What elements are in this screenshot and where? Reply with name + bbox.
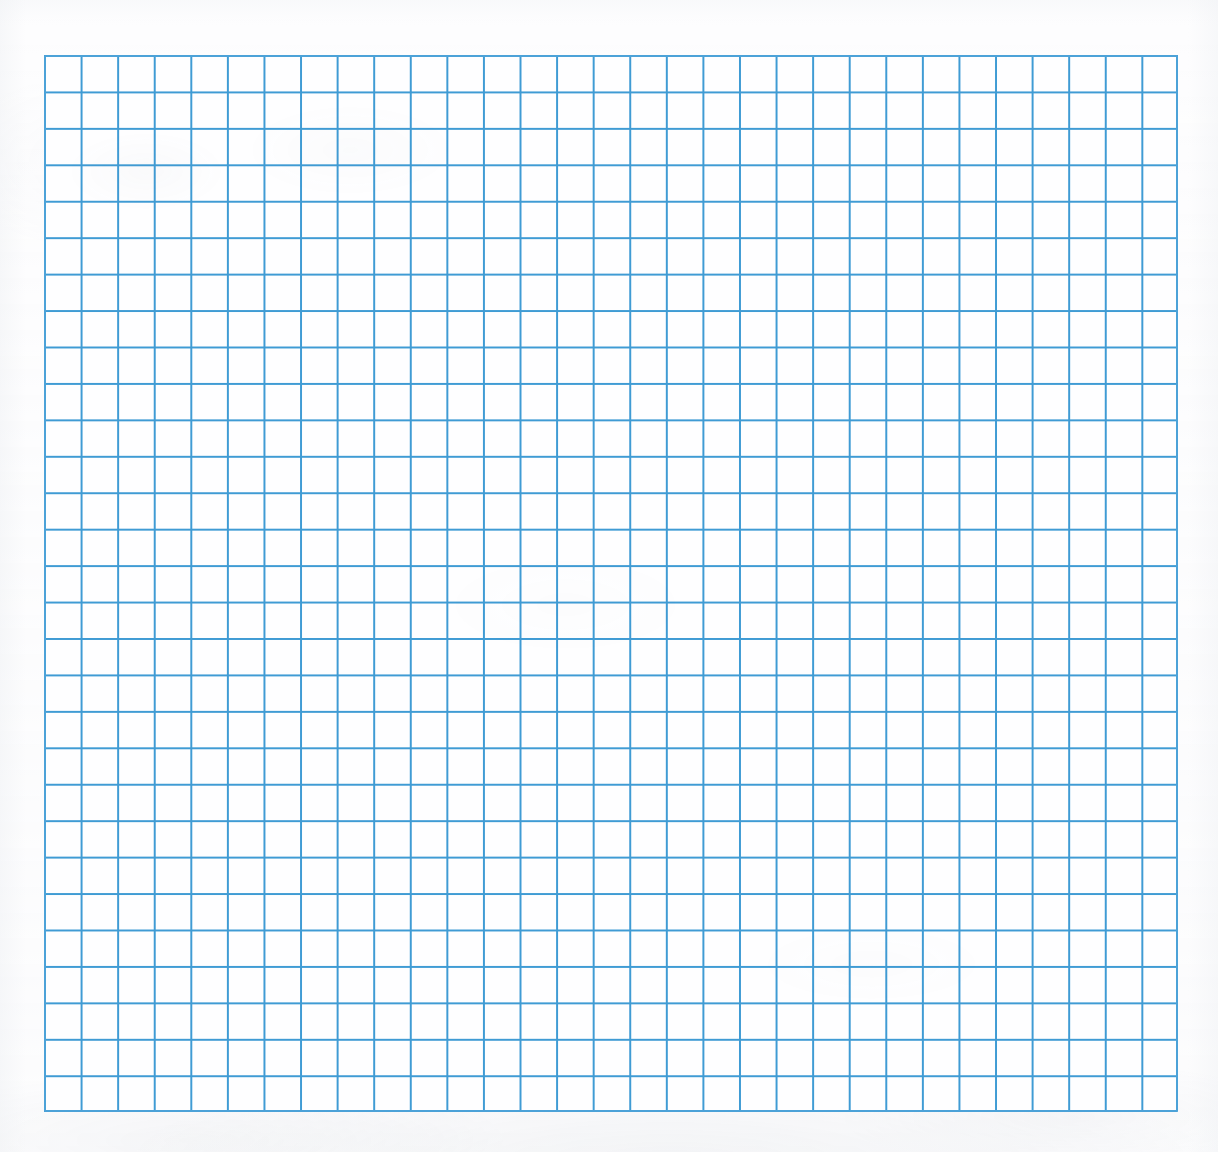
grid-ruling-lines xyxy=(44,55,1178,1112)
scanned-page xyxy=(0,0,1218,1152)
graph-paper-grid xyxy=(44,55,1178,1112)
grid-outer-border xyxy=(44,55,1178,1112)
grid-paper-noise xyxy=(44,55,1178,1112)
